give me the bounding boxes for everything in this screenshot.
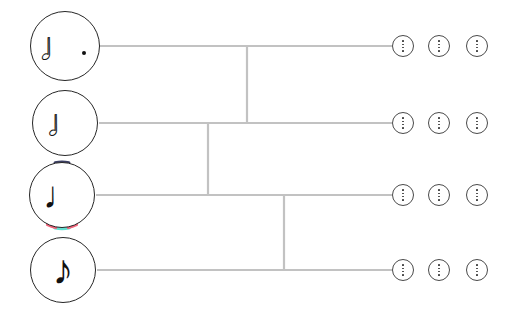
eighth-note-icon: ♪ [31, 238, 95, 302]
more-options-icon-r4-c1[interactable] [392, 259, 414, 281]
node-quarter[interactable]: ♩ [29, 162, 95, 228]
more-options-icon-r1-c2[interactable] [428, 35, 450, 57]
vertical-ellipsis-icon [438, 264, 440, 276]
vertical-ellipsis-icon [438, 117, 440, 129]
dotted-half-note-icon: ♩ [28, 12, 96, 80]
vertical-ellipsis-icon [476, 264, 478, 276]
vertical-ellipsis-icon [438, 40, 440, 52]
dendrogram-canvas: ♩♩♩♪ [0, 0, 516, 322]
more-options-icon-r1-c3[interactable] [466, 35, 488, 57]
more-options-icon-r3-c2[interactable] [428, 184, 450, 206]
vertical-ellipsis-icon [402, 189, 404, 201]
more-options-icon-r3-c1[interactable] [392, 184, 414, 206]
vertical-ellipsis-icon [476, 189, 478, 201]
more-options-icon-r3-c3[interactable] [466, 184, 488, 206]
vertical-ellipsis-icon [476, 117, 478, 129]
more-options-icon-r4-c2[interactable] [428, 259, 450, 281]
vertical-ellipsis-icon [402, 40, 404, 52]
vertical-ellipsis-icon [438, 189, 440, 201]
more-options-icon-r2-c1[interactable] [392, 112, 414, 134]
node-half[interactable]: ♩ [32, 90, 98, 156]
augmentation-dot-icon [82, 51, 86, 55]
node-dotted-half[interactable]: ♩ [30, 11, 100, 81]
node-eighth[interactable]: ♪ [30, 237, 96, 303]
vertical-ellipsis-icon [476, 40, 478, 52]
vertical-ellipsis-icon [402, 117, 404, 129]
more-options-icon-r1-c1[interactable] [392, 35, 414, 57]
vertical-ellipsis-icon [402, 264, 404, 276]
half-note-icon: ♩ [33, 91, 97, 155]
more-options-icon-r4-c3[interactable] [466, 259, 488, 281]
more-options-icon-r2-c3[interactable] [466, 112, 488, 134]
quarter-note-icon: ♩ [30, 163, 94, 227]
more-options-icon-r2-c2[interactable] [428, 112, 450, 134]
